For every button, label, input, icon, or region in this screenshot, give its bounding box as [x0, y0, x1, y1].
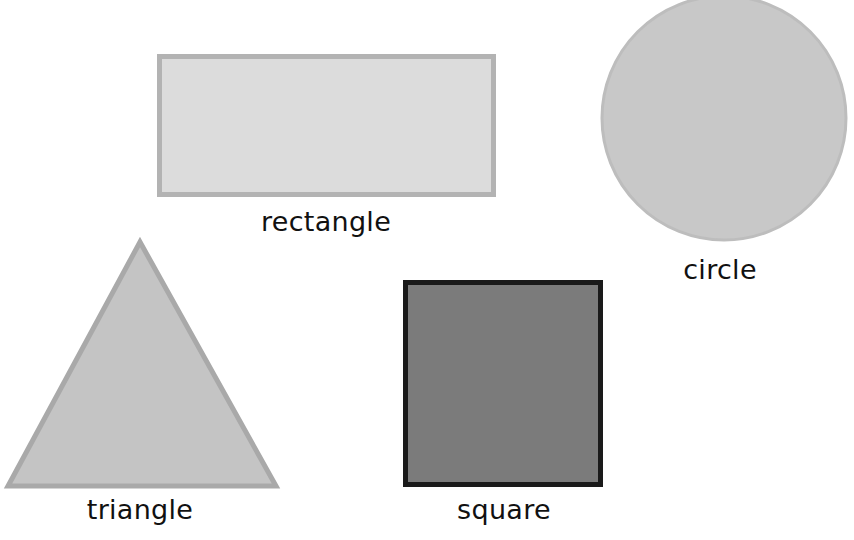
triangle-shape — [8, 242, 276, 486]
rectangle-label: rectangle — [261, 206, 391, 237]
square-shape — [406, 283, 601, 485]
circle-shape — [602, 0, 846, 240]
circle-label: circle — [683, 254, 757, 285]
square-label: square — [457, 494, 551, 525]
triangle-label: triangle — [87, 494, 194, 525]
rectangle-shape — [160, 57, 494, 195]
